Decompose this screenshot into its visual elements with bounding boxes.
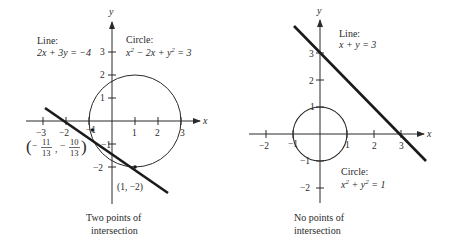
right-circle-equation: x2 + y2 = 1 [340, 178, 385, 190]
right-y-tick-label: −2 [300, 183, 310, 193]
left-circle-label: Circle: [126, 34, 153, 45]
right-x-tick-label: 3 [399, 141, 404, 151]
right-line-equation: x + y = 3 [338, 39, 376, 50]
point-a-label: ( − 11 13 , − 10 13 ) [26, 137, 87, 158]
left-graph: x y −3 −2 −1 1 2 3 3 2 1 −1 −2 [26, 6, 208, 236]
svg-text:11: 11 [42, 137, 50, 147]
right-y-tick-label: −1 [300, 156, 310, 166]
left-line-label: Line: [37, 35, 58, 46]
right-x-axis-label: x [426, 128, 432, 139]
left-caption-line2: intersection [91, 225, 138, 236]
svg-text:): ) [81, 137, 87, 156]
svg-text:−: − [32, 141, 37, 151]
point-b-label: (1, −2) [117, 182, 143, 193]
left-x-tick-label: −2 [59, 128, 69, 138]
right-caption-line1: No points of [294, 212, 345, 223]
left-y-tick-label: 3 [100, 47, 105, 57]
left-x-tick-label: 3 [180, 128, 185, 138]
left-x-tick-label: 1 [132, 128, 137, 138]
diagram: x y −3 −2 −1 1 2 3 3 2 1 −1 −2 [0, 0, 452, 240]
svg-text:−: − [60, 141, 65, 151]
left-y-tick-label: −2 [93, 163, 103, 173]
left-y-axis-label: y [108, 6, 114, 17]
left-x-axis-label: x [202, 115, 208, 126]
left-y-tick-label: 1 [100, 93, 105, 103]
right-line-label: Line: [339, 28, 360, 39]
left-y-tick-label: 2 [100, 70, 105, 80]
svg-text:10: 10 [70, 137, 79, 147]
intersection-point-a [91, 128, 95, 132]
right-x-tick-label: 2 [372, 141, 377, 151]
svg-text:13: 13 [42, 148, 51, 158]
right-y-tick-label: 3 [309, 49, 314, 59]
svg-text:13: 13 [70, 148, 79, 158]
intersection-point-b [133, 165, 137, 169]
svg-text:,: , [55, 144, 57, 154]
right-y-tick-label: 1 [310, 102, 315, 112]
right-x-tick-label: −2 [259, 141, 269, 151]
right-y-axis-label: y [316, 5, 322, 16]
left-circle-equation: x2 − 2x + y2 = 3 [125, 46, 192, 58]
right-caption-line2: intersection [294, 225, 341, 236]
right-y-tick-label: 2 [309, 76, 314, 86]
left-line-equation: 2x + 3y = −4 [37, 47, 91, 58]
left-caption-line1: Two points of [86, 212, 142, 223]
right-circle-label: Circle: [341, 166, 368, 177]
right-graph: x y −2 −1 1 2 3 3 2 1 −1 −2 Line: [249, 5, 432, 236]
left-x-tick-label: 2 [155, 128, 160, 138]
